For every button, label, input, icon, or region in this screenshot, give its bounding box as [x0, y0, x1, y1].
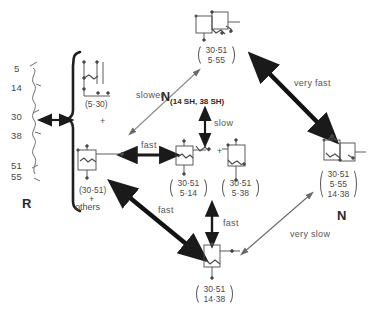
node-right-species: 30·51 5·55 14·38 — [320, 168, 357, 204]
paren-left-icon — [170, 177, 176, 199]
species-5-30-label: (5·30) — [85, 99, 108, 109]
diagram-canvas: 5 14 30 38 51 55 R (5·30) + (30·51) + ot… — [0, 0, 374, 317]
reduced-label-R: R — [22, 196, 31, 211]
center-plus-sign: + — [217, 146, 222, 156]
native-label-N: N — [337, 208, 346, 223]
paren-left-icon — [222, 177, 228, 199]
rate-label-fast-horizontal: fast — [141, 140, 157, 150]
intermediate-label: N(14 SH, 38 SH) — [161, 90, 224, 104]
node-bottom-species: 30·51 14·38 — [196, 283, 233, 309]
node-right-line-2: 5·55 — [330, 179, 347, 189]
intermediate-label-sub: (14 SH, 38 SH) — [170, 97, 224, 106]
paren-left-icon — [196, 283, 202, 305]
rate-label-very-fast: very fast — [294, 78, 331, 88]
molecule-30-51 — [77, 145, 124, 180]
rate-label-fast-vertical: fast — [223, 218, 239, 228]
node-center-right-line-2: 5·38 — [232, 188, 249, 198]
rate-label-very-slow: very slow — [290, 229, 330, 239]
molecule-bottom — [204, 243, 240, 280]
residue-number-51: 51 — [11, 160, 22, 171]
bracket-plus-1: + — [100, 116, 105, 126]
molecule-center-right — [222, 139, 245, 182]
node-center-left-line-2: 5·14 — [180, 188, 197, 198]
paren-left-icon — [320, 168, 326, 200]
molecule-top — [195, 11, 240, 42]
molecule-layer — [0, 0, 374, 317]
rate-label-fast-diagonal: fast — [158, 205, 174, 215]
node-top-line-2: 5·55 — [208, 55, 225, 65]
paren-right-icon — [229, 44, 235, 66]
residue-number-5: 5 — [14, 63, 19, 74]
node-top-species: 30·51 5·55 — [198, 44, 235, 70]
molecule-center-left — [176, 140, 210, 176]
paren-right-icon — [201, 177, 207, 199]
molecule-right-native — [323, 135, 366, 162]
paren-right-icon — [227, 283, 233, 305]
paren-right-icon — [351, 168, 357, 200]
residue-number-38: 38 — [11, 130, 22, 141]
residue-number-55: 55 — [11, 171, 22, 182]
residue-number-14: 14 — [11, 82, 22, 93]
rate-label-slower: slower — [136, 90, 164, 100]
rate-label-slow-vertical: slow — [214, 118, 233, 128]
paren-right-icon — [253, 177, 259, 199]
paren-left-icon — [198, 44, 204, 66]
others-label: others — [75, 202, 100, 212]
node-center-left-species: 30·51 5·14 — [170, 177, 207, 203]
node-center-right-species: 30·51 5·38 — [222, 177, 259, 203]
residue-number-30: 30 — [11, 111, 22, 122]
molecule-5-30 — [83, 61, 110, 96]
